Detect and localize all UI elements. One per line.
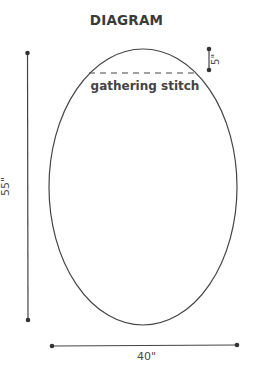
gathering-stitch-label: gathering stitch — [0, 79, 253, 93]
height-label: 55" — [0, 177, 12, 196]
gathering-offset-label: 5" — [210, 54, 221, 65]
sewing-diagram: DIAGRAM gathering stitch 55" 40" 5" — [0, 0, 253, 383]
width-dimension — [50, 343, 240, 349]
width-label: 40" — [0, 350, 253, 363]
